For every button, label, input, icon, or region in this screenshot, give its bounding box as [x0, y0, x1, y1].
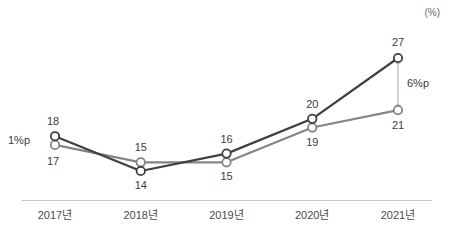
data-label-gray-2: 15 [213, 170, 241, 182]
line-chart: (%) 18 14 16 20 27 17 15 15 19 21 1%p 6%… [0, 0, 454, 232]
data-label-dark-4: 27 [384, 36, 412, 48]
data-label-gray-0: 17 [39, 155, 67, 167]
data-label-gray-3: 19 [298, 136, 326, 148]
data-point-marker [222, 149, 230, 157]
data-point-marker [137, 167, 145, 175]
x-tick-label-2021: 2021년 [363, 206, 433, 222]
data-label-dark-2: 16 [213, 133, 241, 145]
data-label-gray-1: 15 [127, 141, 155, 153]
data-point-marker [394, 106, 402, 114]
data-label-gray-4: 21 [384, 119, 412, 131]
data-label-dark-1: 14 [127, 179, 155, 191]
x-tick-label-2018: 2018년 [106, 206, 176, 222]
data-label-dark-0: 18 [39, 115, 67, 127]
x-tick-label-2019: 2019년 [192, 206, 262, 222]
x-tick-label-2020: 2020년 [277, 206, 347, 222]
annotation-label-6pp: 6%p [407, 77, 429, 89]
annotation-label-1pp: 1%p [8, 134, 30, 146]
data-point-marker [308, 115, 316, 123]
data-point-marker [394, 54, 402, 62]
x-tick-label-2017: 2017년 [20, 206, 90, 222]
data-point-marker [51, 132, 59, 140]
data-point-marker [51, 141, 59, 149]
data-point-marker [308, 123, 316, 131]
data-point-marker [137, 158, 145, 166]
data-point-marker [222, 158, 230, 166]
chart-plot-area [0, 0, 454, 232]
data-label-dark-3: 20 [298, 98, 326, 110]
annotation-connectors [53, 63, 401, 141]
